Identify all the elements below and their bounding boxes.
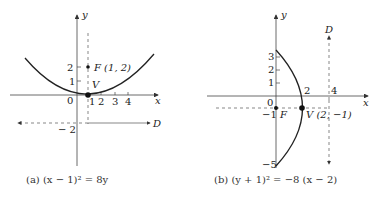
focus-label: F [279, 109, 288, 120]
x-axis-label: x [155, 95, 161, 106]
caption-a: (a) (x − 1)² = 8y [26, 174, 109, 185]
x-axis-label: x [363, 97, 369, 108]
x-tick-2: 2 [98, 96, 104, 107]
x-tick-2: 2 [304, 85, 310, 96]
y-tick-2: 2 [268, 64, 274, 75]
focus-point [86, 65, 90, 69]
vertex-point [299, 105, 305, 111]
directrix-label: D [324, 24, 333, 35]
y-tick-3: 3 [268, 51, 274, 62]
figure-b: y x 0 2 4 1 2 3 −1 −5 F V (2, −1) D (b) … [207, 9, 369, 185]
y-tick-1: 1 [69, 76, 75, 87]
origin-label: 0 [267, 97, 273, 108]
x-tick-4: 4 [331, 85, 337, 96]
origin-label: 0 [67, 95, 73, 106]
focus-label: F (1, 2) [93, 62, 131, 73]
caption-b: (b) (y + 1)² = −8 (x − 2) [214, 174, 337, 185]
figure-canvas: y x 0 1 2 3 4 1 2 − 2 F (1, 2) V D (a) (… [0, 0, 383, 197]
parabola-curve [25, 54, 154, 94]
y-tick-neg2: − 2 [58, 124, 76, 135]
figure-a: y x 0 1 2 3 4 1 2 − 2 F (1, 2) V D (a) (… [10, 9, 161, 185]
x-tick-1: 1 [89, 96, 95, 107]
x-tick-3: 3 [112, 96, 118, 107]
x-tick-4: 4 [125, 96, 131, 107]
vertex-label: V [92, 79, 101, 90]
y-tick-1: 1 [268, 77, 274, 88]
y-tick-neg1: −1 [262, 109, 277, 120]
tick-marks [276, 57, 280, 83]
y-axis-label: y [280, 9, 287, 20]
vertex-label: V (2, −1) [306, 109, 352, 120]
y-tick-neg5: −5 [262, 159, 277, 170]
y-tick-2: 2 [67, 62, 73, 73]
y-axis-label: y [81, 9, 88, 20]
directrix-label: D [152, 118, 161, 129]
